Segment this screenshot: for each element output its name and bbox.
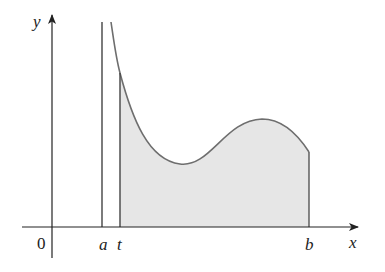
shaded-area [120, 73, 309, 227]
origin-label: 0 [37, 234, 46, 253]
tick-label-a: a [99, 235, 108, 254]
diagram: y x 0 a t b [0, 0, 385, 272]
y-axis-label: y [31, 12, 41, 31]
tick-label-b: b [305, 235, 314, 254]
tick-label-t: t [117, 235, 123, 254]
x-axis-label: x [348, 233, 357, 252]
